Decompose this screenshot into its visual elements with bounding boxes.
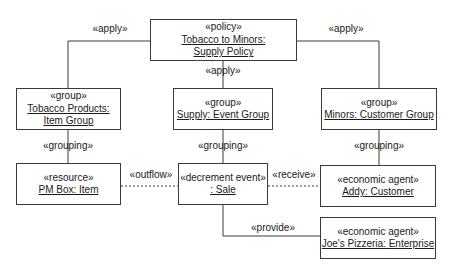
stereotype: «group» xyxy=(361,97,398,110)
stereotype: «resource» xyxy=(43,172,93,185)
stereotype: «policy» xyxy=(205,21,242,34)
label-grouping-right: «grouping» xyxy=(354,140,404,152)
label-grouping-center: «grouping» xyxy=(198,140,248,152)
label-apply-center: «apply» xyxy=(205,65,240,77)
label-provide: «provide» xyxy=(251,222,295,234)
label-apply-left: «apply» xyxy=(92,23,127,35)
label-apply-right: «apply» xyxy=(328,23,363,35)
node-sale[interactable]: «decrement event» : Sale xyxy=(178,163,268,205)
stereotype: «group» xyxy=(205,97,242,110)
object-name: Tobacco to Minors: xyxy=(182,34,266,47)
object-name: Tobacco Products: xyxy=(27,103,109,116)
object-name: Supply Policy xyxy=(193,46,253,59)
node-addy[interactable]: «economic agent» Addy: Customer xyxy=(320,165,436,207)
node-joes-pizzeria[interactable]: «economic agent» Joe's Pizzeria: Enterpr… xyxy=(320,217,436,259)
object-name: Minors: Customer Group xyxy=(324,109,433,122)
stereotype: «economic agent» xyxy=(337,226,419,239)
stereotype: «decrement event» xyxy=(180,172,266,185)
object-name: PM Box: Item xyxy=(38,184,98,197)
edge-apply-right xyxy=(297,41,379,88)
node-tobacco-group[interactable]: «group» Tobacco Products: Item Group xyxy=(16,88,121,130)
object-name: Supply: Event Group xyxy=(177,109,269,122)
node-pm-box[interactable]: «resource» PM Box: Item xyxy=(16,163,121,205)
stereotype: «economic agent» xyxy=(337,174,419,187)
node-minors-group[interactable]: «group» Minors: Customer Group xyxy=(321,88,437,130)
object-name: Addy: Customer xyxy=(342,186,414,199)
label-outflow: «outflow» xyxy=(130,169,173,181)
stereotype: «group» xyxy=(50,90,87,103)
object-name: Joe's Pizzeria: Enterprise xyxy=(322,238,435,251)
node-supply-group[interactable]: «group» Supply: Event Group xyxy=(173,88,273,130)
node-policy[interactable]: «policy» Tobacco to Minors: Supply Polic… xyxy=(150,19,297,61)
object-name: Item Group xyxy=(43,115,93,128)
edge-apply-left xyxy=(68,41,150,88)
object-name: : Sale xyxy=(210,184,236,197)
label-receive: «receive» xyxy=(272,169,315,181)
label-grouping-left: «grouping» xyxy=(43,140,93,152)
